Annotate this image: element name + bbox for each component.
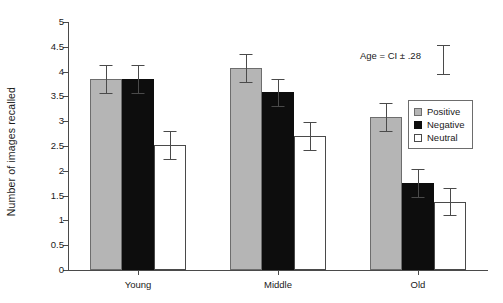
y-tick-label: 1.5 (51, 191, 64, 201)
y-tick-label: 3 (59, 116, 64, 126)
x-tick-mark (418, 270, 419, 275)
y-tick-label: 0 (59, 265, 64, 275)
error-bar-old-neutral (450, 188, 451, 216)
y-tick-label: 0.5 (51, 240, 64, 250)
legend-item-positive: Positive (414, 105, 465, 118)
error-bar-cap-lower (304, 150, 317, 151)
error-annotation-label: Age = CI ± .28 (360, 51, 421, 61)
bar-middle-neutral (294, 136, 326, 270)
x-tick-mark (278, 270, 279, 275)
error-bar-cap-upper (444, 188, 457, 189)
error-bar-cap-upper (100, 65, 113, 66)
error-bar-cap-lower (164, 159, 177, 160)
x-tick-label-old: Old (411, 280, 426, 290)
legend-label-positive: Positive (427, 107, 460, 117)
y-tick-label: 3.5 (51, 92, 64, 102)
legend: PositiveNegativeNeutral (408, 100, 473, 149)
x-tick-label-middle: Middle (264, 280, 292, 290)
error-bar-cap-upper (272, 79, 285, 80)
error-bar-young-neutral (170, 131, 171, 159)
legend-item-neutral: Neutral (414, 131, 465, 144)
error-bar-cap-upper (132, 65, 145, 66)
error-bar-cap-lower (240, 82, 253, 83)
y-axis-title: Number of images recalled (0, 0, 22, 303)
error-bar-cap-upper (380, 103, 393, 104)
x-tick-mark (138, 270, 139, 275)
error-bar-cap-lower (132, 93, 145, 94)
error-annotation-reference-bar (443, 45, 444, 75)
error-bar-old-negative (418, 169, 419, 197)
error-bar-cap-lower (100, 93, 113, 94)
error-bar-cap-lower (380, 131, 393, 132)
legend-item-negative: Negative (414, 118, 465, 131)
error-bar-cap-upper (412, 169, 425, 170)
bar-young-negative (122, 79, 154, 270)
y-tick-label: 4 (59, 67, 64, 77)
bar-chart-figure: Number of images recalled 00.511.522.533… (0, 0, 503, 303)
error-bar-cap-lower (412, 197, 425, 198)
error-bar-young-negative (138, 65, 139, 93)
black-filled-swatch (414, 121, 422, 129)
y-tick-label: 2.5 (51, 141, 64, 151)
error-bar-middle-neutral (310, 122, 311, 150)
error-bar-cap-upper (164, 131, 177, 132)
white-open-swatch (414, 134, 422, 142)
bar-middle-positive (230, 68, 262, 270)
error-bar-young-positive (106, 65, 107, 93)
gray-filled-swatch (414, 108, 422, 116)
y-tick-label: 1 (59, 216, 64, 226)
error-bar-cap-lower (444, 215, 457, 216)
error-bar-cap-upper (240, 54, 253, 55)
legend-label-negative: Negative (427, 120, 465, 130)
legend-label-neutral: Neutral (427, 133, 458, 143)
y-tick-label: 5 (59, 17, 64, 27)
x-tick-label-young: Young (125, 280, 152, 290)
y-tick-label: 4.5 (51, 42, 64, 52)
bar-old-positive (370, 117, 402, 270)
error-bar-cap-upper (304, 122, 317, 123)
error-bar-cap-lower (272, 106, 285, 107)
y-axis-line (68, 22, 69, 270)
bar-young-positive (90, 79, 122, 270)
y-tick-label: 2 (59, 166, 64, 176)
error-bar-middle-positive (246, 54, 247, 82)
error-bar-middle-negative (278, 79, 279, 107)
bar-young-neutral (154, 145, 186, 270)
bar-middle-negative (262, 92, 294, 270)
error-bar-old-positive (386, 103, 387, 131)
